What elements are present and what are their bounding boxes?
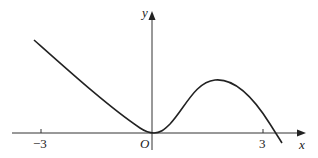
x-tick-label-3: 3 <box>259 137 266 150</box>
function-graph <box>0 0 318 158</box>
origin-label: O <box>140 137 149 150</box>
y-axis-arrow-icon <box>149 11 156 20</box>
x-axis-arrow-icon <box>297 130 306 137</box>
x-tick-label-neg3: −3 <box>33 137 47 150</box>
x-axis-label: x <box>299 138 305 151</box>
y-axis-label: y <box>142 6 148 19</box>
function-curve <box>34 40 282 143</box>
